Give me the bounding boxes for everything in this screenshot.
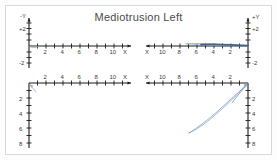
chart-root: Mediotrusion Left — [0, 0, 277, 160]
panel-bottom-right: X 10 8 6 4 2 2 4 6 8 — [145, 74, 256, 148]
x-axis-label-top-left: X — [123, 49, 127, 55]
x-tick-top-right-3: 4 — [212, 49, 216, 55]
y-tick-bottom-left-3: 8 — [19, 141, 23, 147]
x-axis-label-top-right: X — [145, 49, 149, 55]
x-axis-label-bottom-left: X — [123, 74, 127, 80]
x-tick-bottom-left-2: 6 — [78, 74, 82, 80]
x-axis-label-bottom-right: X — [145, 74, 149, 80]
y-axis-arrow-top-right — [247, 18, 250, 22]
x-tick-top-right-4: 2 — [229, 49, 233, 55]
x-tick-bottom-left-4: 10 — [110, 74, 117, 80]
y-tick-bottom-left-0: 2 — [19, 96, 23, 102]
y-tick-bottom-right-3: 8 — [252, 141, 256, 147]
panel-top-left: -Y X +2 -2 2 4 6 8 10 — [19, 13, 131, 68]
x-tick-top-left-4: 10 — [110, 49, 117, 55]
y-tick-bottom-right-0: 2 — [252, 96, 256, 102]
x-tick-top-left-3: 8 — [95, 49, 99, 55]
trace-bottom-right-closing — [189, 85, 247, 134]
x-tick-top-left-2: 6 — [78, 49, 82, 55]
y-tick-top-right-1: -2 — [252, 60, 258, 66]
panel-top-right: +Y X +2 -2 10 8 6 4 2 — [145, 14, 260, 68]
x-tick-top-left-0: 2 — [44, 49, 48, 55]
x-tick-bottom-left-0: 2 — [44, 74, 48, 80]
x-axis-arrow-bottom-left — [128, 82, 132, 85]
y-axis-arrow-top-left — [28, 18, 31, 22]
x-tick-bottom-right-4: 2 — [229, 74, 233, 80]
y-tick-bottom-right-2: 6 — [252, 126, 256, 132]
y-axis-label-top-left: -Y — [20, 13, 26, 19]
trace-top-left — [29, 46, 40, 47]
y-tick-bottom-left-1: 4 — [19, 111, 23, 117]
x-tick-top-right-2: 6 — [195, 49, 199, 55]
x-tick-top-right-0: 10 — [159, 49, 166, 55]
trace-bottom-left-arrowhead — [30, 84, 34, 88]
x-tick-bottom-right-2: 6 — [195, 74, 199, 80]
x-tick-bottom-left-3: 8 — [95, 74, 99, 80]
y-tick-bottom-right-1: 4 — [252, 111, 256, 117]
y-axis-label-top-right: +Y — [252, 14, 260, 20]
trace-bottom-right-inner — [232, 85, 247, 104]
trace-bottom-right-opening — [189, 84, 247, 133]
y-tick-top-left-1: -2 — [19, 60, 25, 66]
x-tick-bottom-right-0: 10 — [159, 74, 166, 80]
x-tick-bottom-left-1: 4 — [61, 74, 65, 80]
y-tick-top-left-0: +2 — [19, 26, 27, 32]
x-tick-bottom-right-3: 4 — [212, 74, 216, 80]
x-tick-top-right-1: 8 — [178, 49, 182, 55]
x-tick-top-left-1: 4 — [61, 49, 65, 55]
x-axis-arrow-top-left — [128, 45, 132, 48]
quadrant-plot: -Y X +2 -2 2 4 6 8 10 — [0, 0, 277, 160]
y-tick-bottom-left-2: 6 — [19, 126, 23, 132]
panel-bottom-left: X 2 4 6 8 10 2 4 6 8 — [19, 74, 131, 148]
x-tick-bottom-right-1: 8 — [178, 74, 182, 80]
y-tick-top-right-0: +2 — [252, 26, 260, 32]
x-axis-arrow-top-right — [146, 45, 150, 48]
x-axis-arrow-bottom-right — [146, 82, 150, 85]
